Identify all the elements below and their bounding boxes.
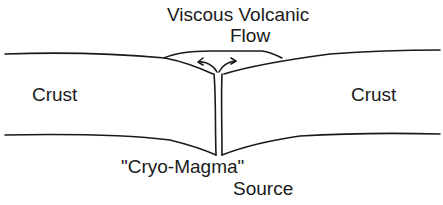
conduit-left-wall xyxy=(214,74,216,155)
viscous-flow-dome xyxy=(164,51,282,58)
left-crust-top-line xyxy=(5,53,213,74)
right-crust-bottom-line xyxy=(222,133,440,155)
crust-label-left: Crust xyxy=(32,85,77,105)
right-crust-top-line xyxy=(224,50,440,74)
source-label-line2: Source xyxy=(233,179,293,199)
flow-label-line2: Flow xyxy=(230,26,270,46)
left-crust-bottom-line xyxy=(5,135,216,155)
source-label-line1: "Cryo-Magma" xyxy=(121,157,244,177)
crust-label-right: Crust xyxy=(351,85,396,105)
flow-label-line1: Viscous Volcanic xyxy=(167,5,309,25)
